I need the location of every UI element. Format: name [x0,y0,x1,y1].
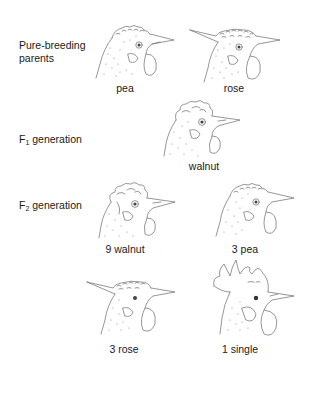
caption-f2-1-single: 1 single [200,343,280,355]
chicken-head-pea-comb-parent [90,20,180,82]
caption-parent-rose: rose [194,82,274,94]
walnut-comb-chicken-illustration-f2 [95,180,180,240]
pea-comb-chicken-illustration-f2 [212,180,297,240]
caption-parent-pea: pea [85,82,165,94]
chicken-head-walnut-comb-f1 [160,100,245,160]
row-label-f1: F1 generation [19,133,82,150]
row-label-f2: F2 generation [19,199,82,216]
rose-comb-chicken-illustration-f2 [85,278,180,338]
caption-f2-9-walnut: 9 walnut [85,243,165,255]
row-label-f1-suffix: generation [29,133,82,145]
caption-f2-3-pea: 3 pea [205,243,285,255]
caption-f1-walnut: walnut [164,160,244,172]
caption-f2-3-rose: 3 rose [84,343,164,355]
chicken-head-walnut-comb-f2 [95,180,180,240]
chicken-head-rose-comb-f2 [85,278,180,338]
row-label-parents-line2: parents [19,52,86,65]
row-label-parents-line1: Pure-breeding [19,39,86,52]
single-comb-chicken-illustration [210,258,300,343]
chicken-head-single-comb-f2 [210,258,300,343]
chicken-head-rose-comb-parent [188,26,283,86]
row-label-f2-suffix: generation [29,199,82,211]
row-label-parents: Pure-breeding parents [19,39,86,64]
walnut-comb-chicken-illustration [160,100,245,160]
pea-comb-chicken-illustration [90,20,180,82]
rose-comb-chicken-illustration [188,26,283,86]
chicken-head-pea-comb-f2 [212,180,297,240]
